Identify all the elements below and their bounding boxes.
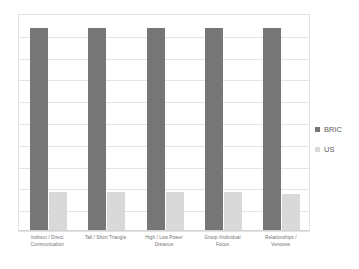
category-label-line: Ventures xyxy=(252,241,310,248)
legend-label-us: US xyxy=(324,145,334,154)
category-label-line: Focus xyxy=(193,241,251,248)
category-axis-labels: Indirect / DirectCommunicationTall / Sho… xyxy=(18,234,310,264)
category-label: High / Low PowerDistance xyxy=(135,234,193,248)
x-axis-line xyxy=(19,230,309,231)
plot-area xyxy=(18,14,310,232)
bar-group xyxy=(88,15,125,231)
bar-us[interactable] xyxy=(166,192,184,231)
category-label: Indirect / DirectCommunication xyxy=(18,234,76,248)
category-label: Group /IndividualFocus xyxy=(193,234,251,248)
bar-group xyxy=(30,15,67,231)
bars-layer xyxy=(19,15,309,231)
bar-group xyxy=(205,15,242,231)
bar-us[interactable] xyxy=(107,192,125,231)
bar-group xyxy=(147,15,184,231)
category-label: Tall / Short Triangle xyxy=(76,234,134,241)
bar-chart: Indirect / DirectCommunicationTall / Sho… xyxy=(0,0,359,269)
bar-bric[interactable] xyxy=(205,28,223,231)
bar-us[interactable] xyxy=(224,192,242,231)
category-label-line: High / Low Power xyxy=(135,234,193,241)
category-label-line: Indirect / Direct xyxy=(18,234,76,241)
legend-item-bric[interactable]: BRIC xyxy=(315,122,359,136)
category-label-line: Tall / Short Triangle xyxy=(76,234,134,241)
legend-item-us[interactable]: US xyxy=(315,142,359,156)
bar-us[interactable] xyxy=(282,194,300,231)
legend-label-bric: BRIC xyxy=(324,125,342,134)
bar-bric[interactable] xyxy=(147,28,165,231)
bar-bric[interactable] xyxy=(263,28,281,231)
legend-swatch-bric-icon xyxy=(315,127,320,132)
category-label: Relationships /Ventures xyxy=(252,234,310,248)
bar-bric[interactable] xyxy=(30,28,48,231)
category-label-line: Group /Individual xyxy=(193,234,251,241)
bar-bric[interactable] xyxy=(88,28,106,231)
bar-group xyxy=(263,15,300,231)
chart-legend: BRIC US xyxy=(315,122,359,162)
category-label-line: Distance xyxy=(135,241,193,248)
legend-swatch-us-icon xyxy=(315,147,320,152)
category-label-line: Relationships / xyxy=(252,234,310,241)
category-label-line: Communication xyxy=(18,241,76,248)
bar-us[interactable] xyxy=(49,192,67,231)
